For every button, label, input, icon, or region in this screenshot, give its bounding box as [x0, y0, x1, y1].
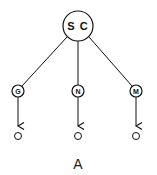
child-label-m: M — [133, 88, 139, 95]
root-node: S C — [63, 11, 93, 41]
diagram-caption: A — [73, 156, 83, 172]
child-node-n: N — [72, 85, 84, 140]
root-label: S C — [67, 20, 88, 32]
child-node-m: M — [130, 85, 142, 140]
child-node-g: G — [12, 85, 24, 140]
tree-diagram: S C G N M A — [0, 0, 157, 175]
child-label-g: G — [15, 88, 21, 95]
leaf-circle-m — [133, 133, 140, 140]
leaf-circle-g — [15, 133, 22, 140]
child-label-n: N — [75, 88, 80, 95]
leaf-circle-n — [75, 133, 82, 140]
edge-root-g — [22, 37, 67, 86]
edge-root-m — [89, 37, 132, 86]
